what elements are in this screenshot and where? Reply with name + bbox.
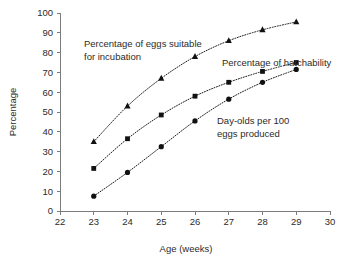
data-point-square bbox=[226, 80, 231, 85]
data-point-circle bbox=[159, 144, 164, 149]
x-tick-label-22: 22 bbox=[55, 216, 66, 227]
x-axis-ticks: 222324252627282930 bbox=[55, 211, 336, 227]
x-tick-label-24: 24 bbox=[122, 216, 133, 227]
y-tick-label-0: 0 bbox=[48, 205, 53, 216]
chart-container: 0102030405060708090100 22232425262728293… bbox=[0, 0, 352, 258]
data-point-square bbox=[91, 166, 96, 171]
annotation-day-olds-line1: Day-olds per 100 bbox=[217, 115, 289, 126]
data-point-circle bbox=[260, 80, 265, 85]
annotation-eggs-suitable-line2: for incubation bbox=[84, 51, 141, 62]
y-axis-ticks: 0102030405060708090100 bbox=[37, 7, 60, 216]
x-tick-label-28: 28 bbox=[257, 216, 268, 227]
annotation-eggs-suitable-line1: Percentage of eggs suitable bbox=[84, 38, 202, 49]
data-point-triangle bbox=[293, 18, 299, 24]
x-tick-label-29: 29 bbox=[291, 216, 302, 227]
y-tick-label-50: 50 bbox=[42, 106, 53, 117]
x-tick-label-23: 23 bbox=[88, 216, 99, 227]
x-tick-label-30: 30 bbox=[325, 216, 336, 227]
data-point-square bbox=[125, 136, 130, 141]
data-point-circle bbox=[91, 194, 96, 199]
x-tick-label-27: 27 bbox=[223, 216, 234, 227]
annotation-hatchability-line1: Percentage of hatchability bbox=[222, 57, 332, 68]
y-axis-title: Percentage bbox=[7, 88, 18, 137]
x-tick-label-25: 25 bbox=[156, 216, 167, 227]
data-point-square bbox=[260, 69, 265, 74]
y-tick-label-90: 90 bbox=[42, 27, 53, 38]
x-tick-label-26: 26 bbox=[190, 216, 201, 227]
annotation-day-olds-line2: eggs produced bbox=[217, 128, 280, 139]
y-tick-label-80: 80 bbox=[42, 47, 53, 58]
data-point-square bbox=[159, 113, 164, 118]
y-tick-label-100: 100 bbox=[37, 7, 53, 18]
data-point-square bbox=[193, 94, 198, 99]
y-tick-label-20: 20 bbox=[42, 166, 53, 177]
data-point-circle bbox=[125, 170, 130, 175]
y-tick-label-10: 10 bbox=[42, 186, 53, 197]
x-axis-title: Age (weeks) bbox=[160, 243, 213, 254]
data-point-circle bbox=[226, 97, 231, 102]
data-point-triangle bbox=[192, 53, 198, 59]
data-point-circle bbox=[192, 118, 197, 123]
data-point-triangle bbox=[158, 75, 164, 81]
y-tick-label-70: 70 bbox=[42, 67, 53, 78]
chart-plot: 0102030405060708090100 22232425262728293… bbox=[0, 0, 352, 258]
y-tick-label-30: 30 bbox=[42, 146, 53, 157]
y-tick-label-60: 60 bbox=[42, 87, 53, 98]
y-tick-label-40: 40 bbox=[42, 126, 53, 137]
